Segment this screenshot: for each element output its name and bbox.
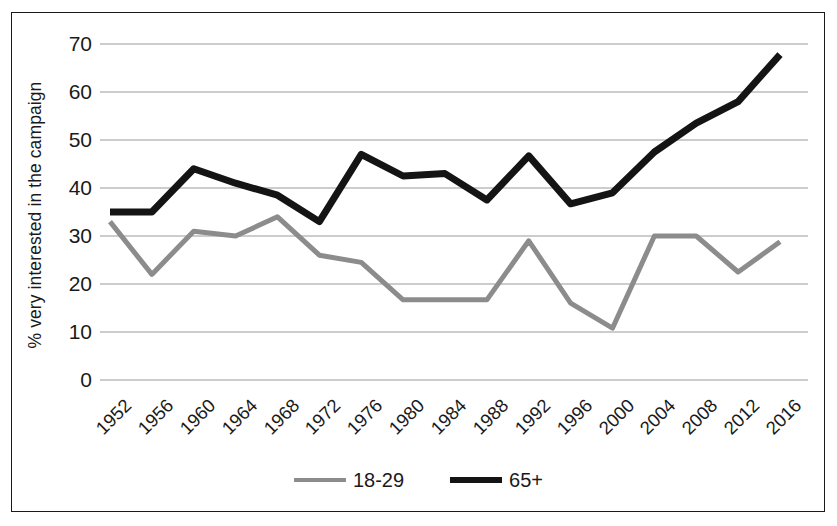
legend-swatch-icon	[294, 478, 346, 482]
legend-item: 18-29	[294, 470, 404, 490]
gridlines	[100, 44, 808, 380]
legend-label: 65+	[509, 470, 543, 490]
chart-legend: 18-2965+	[0, 470, 837, 490]
series-line-18-29	[110, 217, 780, 328]
chart-figure: % very interested in the campaign 706050…	[0, 0, 837, 526]
legend-swatch-icon	[450, 477, 502, 483]
series-line-65-	[110, 55, 780, 222]
legend-item: 65+	[450, 470, 543, 490]
legend-label: 18-29	[353, 470, 404, 490]
data-series-group	[110, 55, 780, 329]
